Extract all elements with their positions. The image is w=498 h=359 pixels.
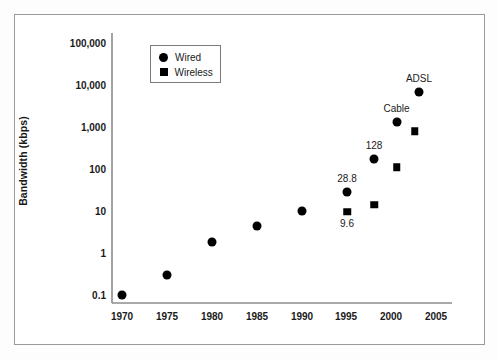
legend-label: Wired (175, 52, 201, 63)
y-tick-label: 1,000 (81, 122, 106, 133)
point-annotation: Cable (383, 103, 409, 114)
point-annotation: 128 (366, 140, 383, 151)
square-marker-icon (160, 68, 168, 76)
x-tick-label: 1990 (291, 311, 313, 322)
data-point-wired (370, 155, 379, 164)
data-point-wired (118, 291, 127, 300)
circle-marker-icon (159, 53, 168, 62)
y-tick-label: 10,000 (75, 80, 106, 91)
x-tick-label: 1975 (156, 311, 178, 322)
legend-box: Wired Wireless (150, 45, 221, 83)
point-annotation: ADSL (406, 73, 432, 84)
y-tick-label: 100 (89, 164, 106, 175)
x-tick-label: 1985 (246, 311, 268, 322)
legend-item-wired: Wired (159, 50, 201, 64)
x-tick-label: 1995 (335, 311, 357, 322)
point-annotation: 28.8 (337, 173, 356, 184)
y-tick-label: 10 (95, 206, 106, 217)
data-point-wired (208, 238, 217, 247)
data-point-wired (392, 118, 401, 127)
legend-item-wireless: Wireless (159, 65, 213, 79)
y-tick-labels: 100,000 10,000 1,000 100 10 1 0.1 (0, 0, 106, 359)
data-point-wired (298, 207, 307, 216)
data-point-wired (253, 221, 262, 230)
point-annotation: 9.6 (340, 218, 354, 229)
x-tick-label: 2000 (380, 311, 402, 322)
data-point-wireless (393, 164, 401, 172)
data-point-wireless (370, 201, 378, 209)
x-tick-label: 1980 (201, 311, 223, 322)
data-point-wired (163, 270, 172, 279)
data-point-wired (415, 87, 424, 96)
y-tick-label: 0.1 (92, 290, 106, 301)
y-tick-label: 100,000 (70, 38, 106, 49)
data-point-wireless (411, 127, 419, 135)
data-point-wireless (343, 208, 351, 216)
legend-label: Wireless (175, 67, 213, 78)
y-tick-label: 1 (100, 248, 106, 259)
x-tick-label: 2005 (425, 311, 447, 322)
x-tick-label: 1970 (111, 311, 133, 322)
data-point-wired (343, 187, 352, 196)
figure-canvas: Bandwidth (kbps) 100,000 10,000 1,000 10… (0, 0, 498, 359)
